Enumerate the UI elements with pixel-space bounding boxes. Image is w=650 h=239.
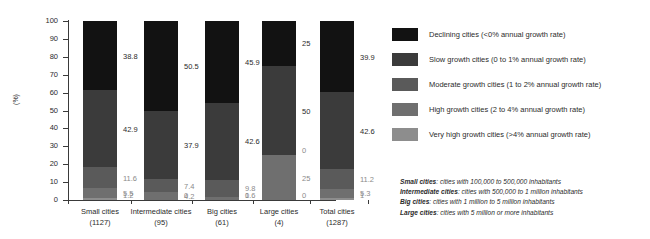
x-axis-tick-mark [68, 200, 69, 204]
footnote-row: Small cities: cities with 100,000 to 500… [400, 177, 650, 187]
bar-segment-value-label: 11.2 [360, 174, 374, 183]
bar-segment[interactable]: 5.5 [83, 188, 117, 198]
stacked-bar[interactable]: 01.69.842.645.9 [205, 21, 239, 200]
legend-swatch [392, 128, 418, 141]
bar-segment-value-label: 42.9 [123, 124, 138, 133]
bar-segment-value-label: 37.9 [184, 141, 199, 150]
bar-segment[interactable]: 5.3 [320, 189, 354, 198]
bar-segment-value-label: 0 [302, 146, 306, 155]
footnote-definition: : cities with 1 million to 5 million inh… [429, 198, 554, 205]
stacked-bar[interactable]: 02505025 [262, 21, 296, 200]
bar-segment[interactable]: 11.6 [83, 167, 117, 188]
legend-item[interactable]: Slow growth cities (0 to 1% annual growt… [392, 47, 647, 72]
legend-label: Moderate growth cities (1 to 2% annual g… [429, 80, 601, 89]
footnotes: Small cities: cities with 100,000 to 500… [400, 177, 650, 218]
footnote-term: Small cities [400, 178, 436, 185]
bar-segment[interactable]: 25 [262, 155, 296, 200]
bar-segment-value-label: 5.5 [123, 188, 133, 197]
stacked-bar[interactable]: 15.311.242.639.9 [320, 21, 354, 200]
bar-segment-value-label: 9.8 [245, 184, 255, 193]
chart-page: (%) 0102030405060708090100 Small cities(… [0, 0, 650, 239]
stacked-bar[interactable]: 1.25.511.642.938.8 [83, 21, 117, 200]
bar-segment[interactable]: 9.8 [205, 180, 239, 198]
bar-segment[interactable]: 11.2 [320, 169, 354, 189]
legend-label: Declining cities (<0% annual growth rate… [429, 30, 566, 39]
footnote-row: Large cities: cities with 5 million or m… [400, 208, 650, 218]
x-axis-tick-mark [310, 200, 311, 204]
bar-segment[interactable]: 45.9 [205, 21, 239, 103]
bar-segment[interactable]: 25 [262, 21, 296, 66]
bar-group: 15.311.242.639.9 [320, 21, 354, 200]
footnote-definition: : cities with 100,000 to 500,000 inhabit… [436, 178, 561, 185]
bar-segment-value-label: 25 [302, 39, 310, 48]
bar-segment-value-label: 0 [302, 191, 306, 200]
bar-segment[interactable]: 39.9 [320, 21, 354, 92]
bar-segment[interactable]: 1 [320, 198, 354, 200]
bar-group: 1.25.511.642.938.8 [83, 21, 117, 200]
bar-segment[interactable]: 42.6 [205, 103, 239, 179]
legend-item[interactable]: Very high growth cities (>4% annual grow… [392, 122, 647, 147]
legend-swatch [392, 78, 418, 91]
bar-group: 01.69.842.645.9 [205, 21, 239, 200]
footnote-row: Intermediate cities: cities with 500,000… [400, 187, 650, 197]
legend-label: Very high growth cities (>4% annual grow… [429, 130, 591, 139]
category-count: (1287) [287, 217, 387, 228]
x-axis-tick-mark [131, 200, 132, 204]
legend-item[interactable]: High growth cities (2 to 4% annual growt… [392, 97, 647, 122]
y-axis-tick-label: 80 [50, 52, 58, 61]
legend-swatch [392, 53, 418, 66]
bar-segment[interactable]: 38.8 [83, 21, 117, 90]
bar-segment[interactable]: 1.6 [205, 197, 239, 200]
x-axis-category-label: Total cities(1287) [287, 206, 387, 228]
bar-segment[interactable]: 42.9 [83, 90, 117, 167]
legend-label: Slow growth cities (0 to 1% annual growt… [429, 55, 586, 64]
chart-panel: (%) 0102030405060708090100 Small cities(… [0, 0, 362, 239]
bar-segment-value-label: 38.8 [123, 51, 138, 60]
category-name: Total cities [287, 206, 387, 217]
bar-segment-value-label: 25 [302, 173, 310, 182]
footnote-term: Big cities [400, 198, 429, 205]
bar-segment-value-label: 4.2 [184, 192, 194, 201]
x-axis-tick-mark [368, 200, 369, 204]
y-axis-tick-label: 60 [50, 88, 58, 97]
bar-segment-value-label: 39.9 [360, 52, 375, 61]
bar-segment-value-label: 45.9 [245, 58, 260, 67]
y-axis-tick-label: 50 [50, 106, 58, 115]
bar-group: 04.27.437.950.5 [144, 21, 178, 200]
y-axis-tick-label: 20 [50, 159, 58, 168]
legend-swatch [392, 103, 418, 116]
bar-segment[interactable]: 7.4 [144, 179, 178, 192]
legend-label: High growth cities (2 to 4% annual growt… [429, 105, 585, 114]
y-axis-tick-label: 10 [50, 177, 58, 186]
bar-segment[interactable]: 50.5 [144, 21, 178, 111]
bar-group: 02505025 [262, 21, 296, 200]
bar-segment[interactable]: 37.9 [144, 111, 178, 179]
y-axis-title: (%) [12, 94, 19, 105]
bar-segment[interactable]: 50 [262, 66, 296, 156]
x-axis-tick-mark [253, 200, 254, 204]
footnote-term: Intermediate cities [400, 188, 458, 195]
legend: Declining cities (<0% annual growth rate… [392, 22, 647, 147]
bar-segment[interactable]: 4.2 [144, 192, 178, 200]
legend-item[interactable]: Declining cities (<0% annual growth rate… [392, 22, 647, 47]
bar-segment-value-label: 42.6 [245, 137, 260, 146]
footnote-definition: : cities with 500,000 to 1 million inhab… [458, 188, 583, 195]
stacked-bar[interactable]: 04.27.437.950.5 [144, 21, 178, 200]
y-axis-tick-label: 0 [54, 195, 58, 204]
x-axis-line [68, 200, 336, 201]
bar-segment-value-label: 5.3 [360, 189, 370, 198]
legend-item[interactable]: Moderate growth cities (1 to 2% annual g… [392, 72, 647, 97]
footnote-row: Big cities: cities with 1 million to 5 m… [400, 197, 650, 207]
legend-swatch [392, 28, 418, 41]
bar-segment-value-label: 11.6 [123, 173, 137, 182]
bar-segment[interactable]: 42.6 [320, 92, 354, 168]
y-axis-tick-label: 30 [50, 141, 58, 150]
footnote-definition: : cities with 5 million or more inhabita… [437, 209, 554, 216]
bar-segment[interactable]: 1.2 [83, 198, 117, 200]
y-axis-tick-label: 70 [50, 70, 58, 79]
footnote-term: Large cities [400, 209, 437, 216]
y-axis-tick-label: 90 [50, 34, 58, 43]
bar-segment-value-label: 50.5 [184, 62, 199, 71]
y-axis-tick-label: 100 [45, 16, 58, 25]
bar-segment-value-label: 7.4 [184, 181, 194, 190]
